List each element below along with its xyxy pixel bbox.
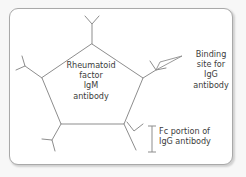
igg-antibody-upper-right-stem (143, 70, 156, 78)
fc-portion-label: Fc portion of IgG antibody (159, 126, 237, 146)
igg-antibody-upper-left-fork (16, 56, 25, 70)
figure-root: Rheumatoid factor IgM antibody Binding s… (0, 0, 246, 177)
igg-antibody-lower-right-stem (124, 124, 136, 150)
igg-antibody-lower-left (42, 124, 61, 151)
binding-site-pointer (156, 56, 182, 70)
igg-antibody-lower-left-stem (52, 124, 61, 140)
rheumatoid-factor-label: Rheumatoid factor IgM antibody (47, 60, 135, 101)
igg-antibody-upper-right (143, 61, 166, 78)
binding-site-label: Binding site for IgG antibody (182, 49, 240, 90)
igg-antibody-lower-right-fork (127, 122, 143, 131)
fc-portion-bracket (148, 126, 156, 152)
igg-antibody-top (85, 16, 99, 44)
igg-antibody-top-fork (85, 16, 99, 24)
igg-antibody-lower-left-fork (42, 139, 55, 151)
igg-antibody-upper-left-stem (25, 66, 42, 78)
igg-antibody-upper-left (16, 56, 42, 78)
igg-antibody-lower-right (124, 122, 143, 150)
